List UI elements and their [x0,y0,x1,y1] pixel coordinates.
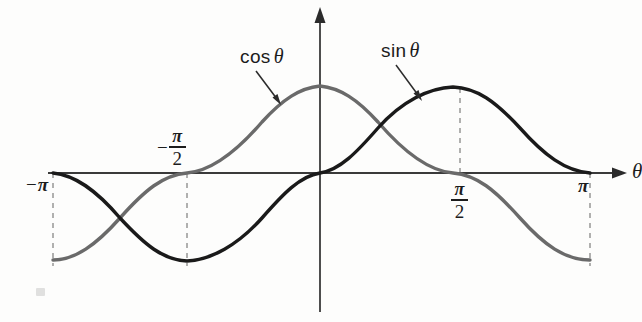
x-tick-label-neg-pi: −π [26,175,48,194]
x-tick-label-half-pi: π 2 [451,180,468,222]
scan-artifact-speck [36,288,45,296]
cos-leader-stroke [256,71,277,99]
sine-curve [53,87,590,261]
y-axis-arrowhead [315,7,326,23]
sin-leader-line [396,65,422,101]
pi-symbol: π [578,175,588,196]
sin-curve-label-variable: θ [407,39,420,61]
sine-cosine-figure: cosθ sinθ −π − π 2 π 2 π θ [0,0,642,322]
y-axis [315,7,326,312]
neg-half-pi-denominator: 2 [169,148,185,168]
sin-curve-label-text: sin [381,40,407,61]
x-axis-arrowhead [612,168,627,179]
half-pi-fraction: π 2 [451,180,468,222]
x-axis [48,168,627,179]
half-pi-denominator: 2 [452,201,468,221]
neg-half-pi-numerator: π [169,127,185,146]
cos-curve-label-variable: θ [271,45,284,67]
neg-half-pi-fraction: π 2 [169,127,186,169]
neg-pi-symbol: π [38,174,48,195]
x-tick-label-pi: π [578,176,588,195]
cos-curve-label-text: cos [240,46,271,67]
plot-canvas [0,0,642,322]
neg-half-pi-minus-sign: − [157,138,169,157]
dashed-guides [53,88,590,266]
x-tick-label-neg-half-pi: − π 2 [157,127,186,169]
half-pi-numerator: π [452,180,468,199]
sin-curve-label: sinθ [381,40,420,60]
sin-leader-stroke [396,65,418,95]
cos-leader-line [256,71,281,105]
x-axis-variable-label: θ [632,161,642,182]
cos-curve-label: cosθ [240,46,284,66]
neg-pi-minus-sign: − [26,174,38,195]
